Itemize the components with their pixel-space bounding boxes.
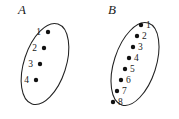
element-dot-icon bbox=[135, 34, 139, 38]
element-label: 1 bbox=[146, 20, 151, 30]
element-label: 7 bbox=[122, 86, 127, 96]
element-dot-icon bbox=[123, 67, 127, 71]
element-dot-icon bbox=[38, 62, 42, 66]
diagram-canvas: A1234B12345678 bbox=[0, 0, 179, 119]
element-label: 5 bbox=[130, 64, 135, 74]
set-element: 5 bbox=[123, 64, 135, 74]
element-label: 2 bbox=[142, 31, 147, 41]
element-dot-icon bbox=[46, 30, 50, 34]
set-group-b: B12345678 bbox=[102, 2, 169, 111]
element-label: 4 bbox=[134, 53, 139, 63]
set-element: 7 bbox=[115, 86, 127, 96]
element-label: 3 bbox=[28, 59, 33, 69]
set-element: 2 bbox=[32, 43, 46, 53]
set-label-a: A bbox=[17, 2, 26, 17]
set-group-a: A1234 bbox=[12, 2, 78, 110]
set-element: 6 bbox=[119, 75, 131, 85]
element-label: 4 bbox=[24, 75, 29, 85]
set-element: 4 bbox=[127, 53, 139, 63]
element-label: 1 bbox=[36, 27, 41, 37]
set-element: 3 bbox=[131, 42, 143, 52]
element-label: 8 bbox=[118, 97, 123, 107]
element-dot-icon bbox=[131, 45, 135, 49]
element-dot-icon bbox=[111, 100, 115, 104]
element-label: 3 bbox=[138, 42, 143, 52]
set-diagram-figure: A1234B12345678 bbox=[0, 0, 179, 119]
element-dot-icon bbox=[127, 56, 131, 60]
element-dot-icon bbox=[42, 46, 46, 50]
set-boundary-a bbox=[12, 18, 78, 111]
element-dot-icon bbox=[34, 78, 38, 82]
element-label: 6 bbox=[126, 75, 131, 85]
set-boundary-b bbox=[102, 17, 169, 112]
set-element: 4 bbox=[24, 75, 38, 85]
set-element: 3 bbox=[28, 59, 42, 69]
element-label: 2 bbox=[32, 43, 37, 53]
set-element: 2 bbox=[135, 31, 147, 41]
set-element: 1 bbox=[139, 20, 151, 30]
element-dot-icon bbox=[115, 89, 119, 93]
element-dot-icon bbox=[139, 23, 143, 27]
element-dot-icon bbox=[119, 78, 123, 82]
set-label-b: B bbox=[108, 2, 116, 17]
